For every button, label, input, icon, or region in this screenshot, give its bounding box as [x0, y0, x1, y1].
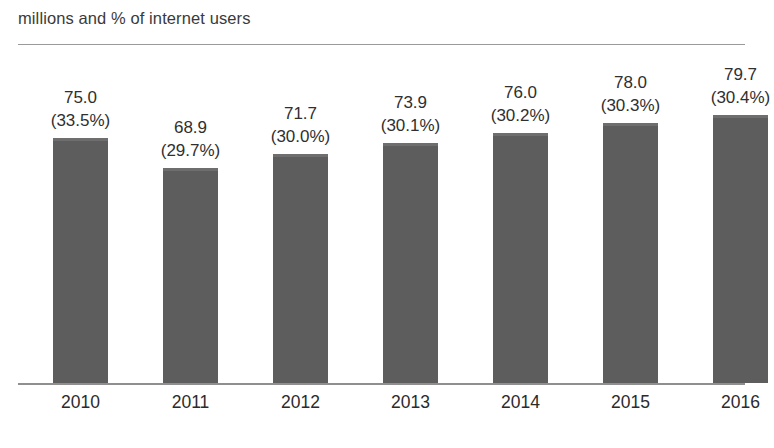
x-axis-line [18, 383, 745, 385]
bar-2013 [383, 143, 438, 383]
bar-2015 [603, 123, 658, 383]
bar-percent-2016: (30.4%) [671, 86, 774, 109]
bar-value-2010: 75.0 [11, 86, 151, 109]
bar-2012 [273, 154, 328, 383]
x-axis-label-2016: 2016 [671, 392, 774, 413]
bar-2016 [713, 115, 768, 383]
bar-label-2016: 79.7(30.4%) [671, 63, 774, 109]
bar-2011 [163, 168, 218, 383]
bar-value-2016: 79.7 [671, 63, 774, 86]
bar-2014 [493, 133, 548, 383]
bar-2010 [53, 138, 108, 383]
